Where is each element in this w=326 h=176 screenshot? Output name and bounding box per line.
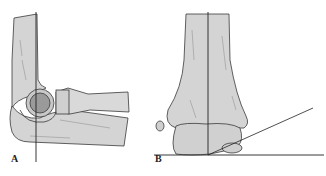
radial-neck-a — [56, 90, 69, 114]
humerus-b — [167, 14, 248, 128]
epicondyle-b — [156, 121, 164, 131]
panel-b-drawing — [154, 12, 324, 155]
capitulum-inner-a — [30, 93, 50, 113]
illustration-canvas — [0, 0, 326, 176]
panel-label-a: A — [11, 153, 18, 164]
panel-label-b: B — [155, 153, 162, 164]
panel-a-drawing — [10, 12, 129, 162]
